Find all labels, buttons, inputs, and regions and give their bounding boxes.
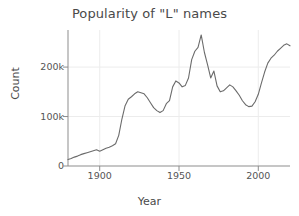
axis-ticks [63, 67, 258, 171]
plot-area [0, 0, 299, 216]
chart-container: Popularity of "L" names Count Year 0 100… [0, 0, 299, 216]
